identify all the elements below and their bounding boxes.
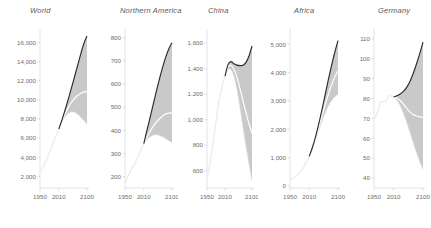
panel-world: World2,0004,0006,0008,00010,00012,00014,… — [0, 0, 96, 228]
y-tick-label: 110 — [360, 35, 370, 42]
plot-area: 405060708090100110195020102100 — [346, 0, 431, 228]
x-tick-label: 2100 — [331, 193, 345, 200]
y-tick-label: 400 — [111, 127, 122, 134]
y-tick-label: 1,200 — [188, 90, 204, 97]
x-tick-label: 2010 — [137, 193, 151, 200]
y-tick-label: 80 — [363, 95, 370, 102]
panel-title: China — [208, 6, 229, 15]
panel-germany: Germany405060708090100110195020102100 — [346, 0, 431, 228]
y-tick-label: 50 — [363, 154, 370, 161]
y-tick-label: 16,000 — [17, 39, 36, 46]
panel-northern-america: Northern America200300400500600700800195… — [96, 0, 178, 228]
panel-title: Germany — [378, 6, 410, 15]
y-tick-label: 70 — [363, 115, 370, 122]
plot-area: 2,0004,0006,0008,00010,00012,00014,00016… — [0, 0, 96, 228]
panel-china: China6008001,0001,2001,4001,600195020102… — [178, 0, 258, 228]
population-projection-figure: World2,0004,0006,0008,00010,00012,00014,… — [0, 0, 431, 228]
y-tick-label: 2,000 — [271, 126, 287, 133]
y-tick-label: 2,000 — [21, 173, 37, 180]
y-tick-label: 0 — [283, 182, 287, 189]
y-tick-label: 4,000 — [21, 154, 37, 161]
x-tick-label: 1950 — [367, 193, 381, 200]
x-tick-label: 2100 — [165, 193, 178, 200]
y-tick-label: 10,000 — [17, 96, 36, 103]
y-tick-label: 600 — [111, 80, 122, 87]
historical-line — [207, 76, 225, 178]
y-tick-label: 100 — [360, 55, 371, 62]
y-tick-label: 500 — [111, 103, 122, 110]
y-tick-label: 200 — [111, 173, 122, 180]
y-tick-label: 6,000 — [21, 134, 37, 141]
y-tick-label: 60 — [363, 135, 370, 142]
historical-line — [125, 144, 144, 184]
y-tick-label: 300 — [111, 150, 122, 157]
plot-area: 200300400500600700800195020102100 — [96, 0, 178, 228]
x-tick-label: 2100 — [80, 193, 94, 200]
panel-title: Africa — [294, 6, 314, 15]
x-tick-label: 1950 — [33, 193, 47, 200]
x-tick-label: 1950 — [118, 193, 132, 200]
x-tick-label: 2010 — [52, 193, 66, 200]
x-tick-label: 2010 — [387, 193, 401, 200]
uncertainty-band — [144, 43, 172, 144]
historical-line — [374, 95, 394, 119]
historical-line — [290, 156, 309, 179]
y-tick-label: 8,000 — [21, 115, 37, 122]
plot-area: 01,0002,0003,0004,0005,000195020102100 — [258, 0, 346, 228]
historical-line — [40, 129, 59, 171]
x-tick-label: 2100 — [416, 193, 430, 200]
y-tick-label: 12,000 — [17, 77, 36, 84]
upper-bound-line — [309, 41, 338, 157]
y-tick-label: 40 — [363, 174, 370, 181]
y-tick-label: 800 — [111, 34, 122, 41]
x-tick-label: 1950 — [283, 193, 297, 200]
panel-title: World — [30, 6, 51, 15]
x-tick-label: 2010 — [302, 193, 316, 200]
y-tick-label: 4,000 — [271, 69, 287, 76]
y-tick-label: 600 — [193, 167, 204, 174]
y-tick-label: 3,000 — [271, 97, 287, 104]
x-tick-label: 2010 — [218, 193, 232, 200]
panel-title: Northern America — [120, 6, 182, 15]
uncertainty-band — [394, 42, 423, 170]
y-tick-label: 1,000 — [271, 154, 287, 161]
panel-africa: Africa01,0002,0003,0004,0005,00019502010… — [258, 0, 346, 228]
y-tick-label: 1,400 — [188, 65, 204, 72]
y-tick-label: 1,000 — [188, 116, 204, 123]
y-tick-label: 800 — [193, 141, 204, 148]
plot-area: 6008001,0001,2001,4001,600195020102100 — [178, 0, 258, 228]
y-tick-label: 700 — [111, 57, 122, 64]
x-tick-label: 2100 — [245, 193, 258, 200]
x-tick-label: 1950 — [200, 193, 214, 200]
y-tick-label: 90 — [363, 75, 370, 82]
y-tick-label: 14,000 — [17, 58, 36, 65]
y-tick-label: 5,000 — [271, 41, 287, 48]
y-tick-label: 1,600 — [188, 39, 204, 46]
